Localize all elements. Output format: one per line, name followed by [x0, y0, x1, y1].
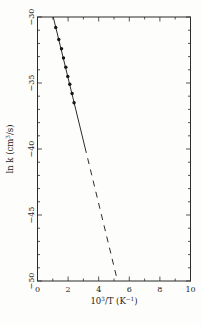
x-tick-label: 0	[35, 285, 40, 294]
plot-frame	[38, 17, 191, 281]
x-tick-label: 2	[66, 285, 71, 294]
y-tick-label: −50	[27, 273, 36, 290]
fit-line-solid	[53, 17, 85, 147]
x-axis-label: 103/T (K−1)	[90, 296, 137, 306]
y-tick-label: −45	[27, 207, 36, 224]
data-point	[64, 65, 67, 68]
data-point	[72, 101, 75, 104]
data-point	[70, 92, 73, 95]
y-tick-label: −40	[27, 141, 36, 158]
data-point	[54, 26, 57, 29]
y-tick-label: −30	[27, 9, 36, 26]
data-point	[68, 83, 71, 86]
y-axis-label: ln k (cm3/s)	[5, 124, 15, 173]
x-tick-label: 4	[96, 285, 101, 294]
arrhenius-plot-svg: 0246810−30−35−40−45−50103/T (K−1)ln k (c…	[0, 0, 202, 325]
data-point	[60, 47, 63, 50]
figure: 0246810−30−35−40−45−50103/T (K−1)ln k (c…	[0, 0, 202, 325]
data-point	[57, 38, 60, 41]
x-tick-label: 6	[127, 285, 132, 294]
data-point	[66, 75, 69, 78]
fit-line-dashed	[85, 147, 118, 281]
data-point	[62, 56, 65, 59]
y-tick-label: −35	[27, 75, 36, 92]
x-tick-label: 8	[157, 285, 162, 294]
x-tick-label: 10	[185, 285, 195, 294]
